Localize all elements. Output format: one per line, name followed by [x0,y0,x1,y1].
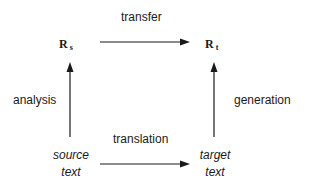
target-line2: text [193,164,237,181]
node-rs: Rs [59,38,73,52]
rt-subscript: t [216,43,219,52]
rs-base: R [59,37,68,51]
generation-label: generation [234,94,291,106]
generation-arrowhead-icon [211,62,218,72]
analysis-arrowhead-icon [67,62,74,72]
rt-base: R [205,37,214,51]
analysis-label: analysis [13,94,56,106]
node-source-text: source text [49,147,93,182]
translation-arrowhead-icon [180,161,190,168]
node-rt: Rt [205,38,218,52]
node-target-text: target text [193,147,237,182]
target-line1: target [193,147,237,164]
source-line2: text [49,164,93,181]
rs-subscript: s [70,43,73,52]
translation-label: translation [113,133,168,145]
transfer-label: transfer [121,11,162,23]
source-line1: source [49,147,93,164]
transfer-arrowhead-icon [180,39,190,46]
